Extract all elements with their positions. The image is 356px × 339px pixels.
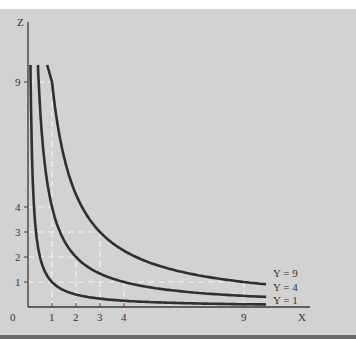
z-tick-label: 9 bbox=[15, 76, 21, 88]
x-tick-label: 1 bbox=[49, 311, 55, 323]
z-tick-label: 3 bbox=[15, 226, 21, 238]
axes bbox=[28, 22, 310, 307]
legend-y9: Y = 9 bbox=[273, 267, 298, 279]
curve-y1 bbox=[31, 65, 267, 305]
x-axis-label: X bbox=[298, 311, 306, 323]
legend-y1: Y = 1 bbox=[273, 294, 298, 306]
x-tick-label: 9 bbox=[241, 311, 247, 323]
origin-label: 0 bbox=[10, 311, 16, 323]
legend-y4: Y = 4 bbox=[273, 281, 298, 293]
z-tick-label: 1 bbox=[15, 276, 21, 288]
z-axis-label: Z bbox=[17, 16, 24, 28]
x-tick-label: 4 bbox=[121, 311, 127, 323]
chart-canvas: 1234912349 Z X 0 Y = 9 Y = 4 Y = 1 bbox=[0, 0, 356, 339]
z-tick-label: 4 bbox=[15, 201, 21, 213]
dashed-guides bbox=[28, 82, 244, 307]
x-tick-label: 3 bbox=[97, 311, 103, 323]
x-tick-label: 2 bbox=[73, 311, 79, 323]
curves bbox=[31, 65, 267, 305]
z-tick-label: 2 bbox=[15, 251, 21, 263]
curve-y9 bbox=[47, 65, 266, 284]
